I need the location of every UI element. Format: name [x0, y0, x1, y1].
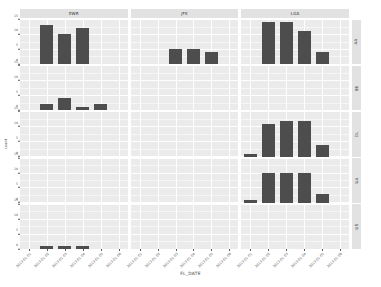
- bar-series: [131, 204, 239, 249]
- y-tick-label: 15: [14, 198, 18, 202]
- y-tick-label: 15: [14, 60, 18, 64]
- y-tick-label: 10: [14, 213, 18, 217]
- y-axis-ticks: 051015: [1, 204, 20, 249]
- y-tick-label: 10: [14, 121, 18, 125]
- facet-panel-ewr-aa: 051015: [20, 20, 128, 65]
- y-axis-ticks: 051015: [1, 20, 20, 65]
- bar-slot: [259, 158, 277, 203]
- bar[interactable]: [316, 194, 329, 203]
- facet-panel-lga-dl: [241, 112, 349, 157]
- bar[interactable]: [262, 124, 275, 157]
- bar-slot: [331, 158, 349, 203]
- x-tick: 2013-01-01: [20, 249, 38, 273]
- bar-slot: [259, 204, 277, 249]
- bar[interactable]: [58, 98, 71, 110]
- facet-strip-right-dl: DL: [352, 112, 361, 157]
- bar-slot: [38, 158, 56, 203]
- bar[interactable]: [76, 28, 89, 64]
- bar[interactable]: [94, 104, 107, 110]
- bar[interactable]: [187, 49, 200, 64]
- facet-panel-jfk-aa: [131, 20, 239, 65]
- y-tick-label: 5: [16, 43, 18, 47]
- bar[interactable]: [316, 145, 329, 157]
- bar-series: [131, 112, 239, 157]
- x-axis-tick-row: 2013-01-012013-01-022013-01-032013-01-04…: [20, 249, 361, 273]
- bar[interactable]: [298, 31, 311, 64]
- facet-strip-right-label: B6: [354, 85, 359, 91]
- x-axis-title: FL_DATE: [0, 271, 381, 283]
- x-tick: 2013-01-03: [167, 249, 185, 273]
- bar-slot: [259, 20, 277, 65]
- x-tick: 2013-01-05: [92, 249, 110, 273]
- bar[interactable]: [205, 52, 218, 64]
- bar[interactable]: [298, 121, 311, 157]
- bar[interactable]: [169, 49, 182, 64]
- bar-slot: [110, 66, 128, 111]
- bar[interactable]: [280, 121, 293, 157]
- bar-slot: [20, 158, 38, 203]
- bar[interactable]: [316, 52, 329, 64]
- bar-slot: [220, 66, 238, 111]
- bar-slot: [295, 112, 313, 157]
- bar-slot: [110, 204, 128, 249]
- bar-slot: [110, 20, 128, 65]
- bar-slot: [110, 158, 128, 203]
- x-tick: 2013-01-02: [149, 249, 167, 273]
- bar-series: [241, 66, 349, 111]
- x-tick: 2013-01-03: [56, 249, 74, 273]
- bar[interactable]: [262, 22, 275, 64]
- bar-slot: [20, 20, 38, 65]
- bar-slot: [313, 112, 331, 157]
- y-tick-label: 15: [14, 106, 18, 110]
- x-tick: 2013-01-01: [241, 249, 259, 273]
- bar[interactable]: [280, 173, 293, 203]
- bar-slot: [38, 204, 56, 249]
- bar[interactable]: [280, 22, 293, 64]
- x-tick: 2013-01-06: [220, 249, 238, 273]
- y-tick-label: 15: [14, 14, 18, 18]
- bar[interactable]: [40, 104, 53, 110]
- bar-slot: [131, 20, 149, 65]
- y-axis-ticks: 051015: [1, 158, 20, 203]
- y-tick-label: 15: [14, 152, 18, 156]
- facet-panel-ewr-ua: 051015: [20, 158, 128, 203]
- bar-slot: [74, 204, 92, 249]
- x-tick: 2013-01-02: [259, 249, 277, 273]
- bar-slot: [149, 66, 167, 111]
- bar-slot: [131, 66, 149, 111]
- facet-panel-lga-aa: [241, 20, 349, 65]
- facet-strip-right-label: US: [354, 224, 359, 230]
- bar-series: [241, 204, 349, 249]
- x-tick: 2013-01-05: [202, 249, 220, 273]
- bar[interactable]: [76, 107, 89, 110]
- bar[interactable]: [298, 173, 311, 203]
- bar[interactable]: [244, 154, 257, 157]
- facet-panel-ewr-dl: 051015: [20, 112, 128, 157]
- y-tick-label: 5: [16, 90, 18, 94]
- x-axis-tick-group-ewr: 2013-01-012013-01-022013-01-032013-01-04…: [20, 249, 128, 273]
- bar[interactable]: [262, 173, 275, 203]
- bar-slot: [295, 204, 313, 249]
- bar-slot: [20, 66, 38, 111]
- bar[interactable]: [58, 34, 71, 64]
- bar-slot: [185, 112, 203, 157]
- bar-slot: [220, 20, 238, 65]
- y-tick-label: 5: [16, 228, 18, 232]
- bar-slot: [202, 20, 220, 65]
- facet-panel-jfk-ua: [131, 158, 239, 203]
- bar[interactable]: [244, 200, 257, 203]
- y-tick-label: 10: [14, 28, 18, 32]
- bar-slot: [259, 66, 277, 111]
- bar-slot: [131, 112, 149, 157]
- x-tick: 2013-01-03: [277, 249, 295, 273]
- bar[interactable]: [40, 25, 53, 64]
- bar-slot: [92, 204, 110, 249]
- facet-bar-chart: count EWRJFKLGA051015AA051015B6051015DL0…: [0, 0, 381, 287]
- bar-slot: [74, 66, 92, 111]
- facet-panel-lga-ua: [241, 158, 349, 203]
- x-axis-tick-group-jfk: 2013-01-012013-01-022013-01-032013-01-04…: [131, 249, 239, 273]
- bar-slot: [241, 204, 259, 249]
- bar-slot: [167, 158, 185, 203]
- bar-slot: [202, 158, 220, 203]
- bar-slot: [185, 66, 203, 111]
